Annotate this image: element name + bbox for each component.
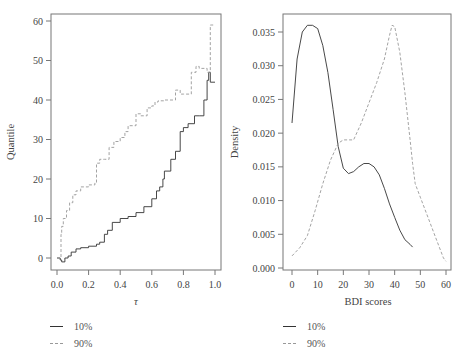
density-plot-frame — [283, 14, 451, 270]
density-legend: 10% 90% — [283, 318, 325, 352]
y-tick-label: 0.010 — [253, 195, 276, 206]
quantile-plot: 0102030405060 0.00.20.40.60.81.0 τ Quant… — [5, 14, 221, 307]
y-tick-label: 0.020 — [253, 128, 276, 139]
y-tick-label: 0.015 — [253, 161, 276, 172]
density-x-label: BDI scores — [345, 296, 392, 307]
y-tick-label: 40 — [33, 95, 43, 106]
legend-item-10: 10% — [50, 318, 92, 335]
y-tick-label: 0 — [38, 253, 43, 264]
legend-item-10: 10% — [283, 318, 325, 335]
solid-line-icon — [50, 326, 63, 327]
x-tick-label: 0.8 — [177, 279, 190, 290]
dashed-line-icon — [50, 343, 63, 344]
quantile-x-axis: 0.00.20.40.60.81.0 — [51, 270, 222, 290]
y-tick-label: 0.025 — [253, 94, 276, 105]
density-series-90 — [292, 25, 446, 261]
y-tick-label: 20 — [33, 174, 43, 185]
y-tick-label: 60 — [33, 16, 43, 27]
x-tick-label: 20 — [338, 279, 348, 290]
x-tick-label: 60 — [441, 279, 451, 290]
quantile-y-axis: 0102030405060 — [33, 16, 51, 264]
x-tick-label: 0.0 — [51, 279, 64, 290]
x-tick-label: 0 — [290, 279, 295, 290]
legend-item-90: 90% — [283, 335, 325, 352]
y-tick-label: 0.035 — [253, 27, 276, 38]
x-tick-label: 1.0 — [209, 279, 222, 290]
quantile-x-label: τ — [134, 296, 139, 307]
density-plot: 0.0000.0050.0100.0150.0200.0250.0300.035… — [229, 14, 451, 307]
solid-line-icon — [283, 326, 296, 327]
y-tick-label: 0.005 — [253, 229, 276, 240]
legend-item-90: 90% — [50, 335, 92, 352]
y-tick-label: 30 — [33, 134, 43, 145]
x-tick-label: 0.6 — [146, 279, 159, 290]
quantile-series-90 — [57, 25, 215, 258]
density-y-label: Density — [229, 125, 240, 158]
figure: 0102030405060 0.00.20.40.60.81.0 τ Quant… — [0, 0, 461, 359]
quantile-legend: 10% 90% — [50, 318, 92, 352]
legend-label: 90% — [307, 338, 325, 349]
density-series-10 — [292, 25, 413, 247]
quantile-y-label: Quantile — [5, 124, 16, 160]
density-x-axis: 0102030405060 — [290, 270, 452, 290]
x-tick-label: 50 — [415, 279, 425, 290]
legend-label: 10% — [74, 321, 92, 332]
x-tick-label: 10 — [313, 279, 323, 290]
x-tick-label: 40 — [390, 279, 400, 290]
y-tick-label: 0.000 — [253, 263, 276, 274]
quantile-plot-frame — [51, 14, 221, 270]
dashed-line-icon — [283, 343, 296, 344]
y-tick-label: 50 — [33, 55, 43, 66]
x-tick-label: 0.2 — [82, 279, 95, 290]
legend-label: 90% — [74, 338, 92, 349]
x-tick-label: 0.4 — [114, 279, 127, 290]
x-tick-label: 30 — [364, 279, 374, 290]
quantile-series-10 — [57, 72, 215, 262]
density-y-axis: 0.0000.0050.0100.0150.0200.0250.0300.035 — [253, 27, 284, 274]
legend-label: 10% — [307, 321, 325, 332]
y-tick-label: 10 — [33, 213, 43, 224]
y-tick-label: 0.030 — [253, 60, 276, 71]
